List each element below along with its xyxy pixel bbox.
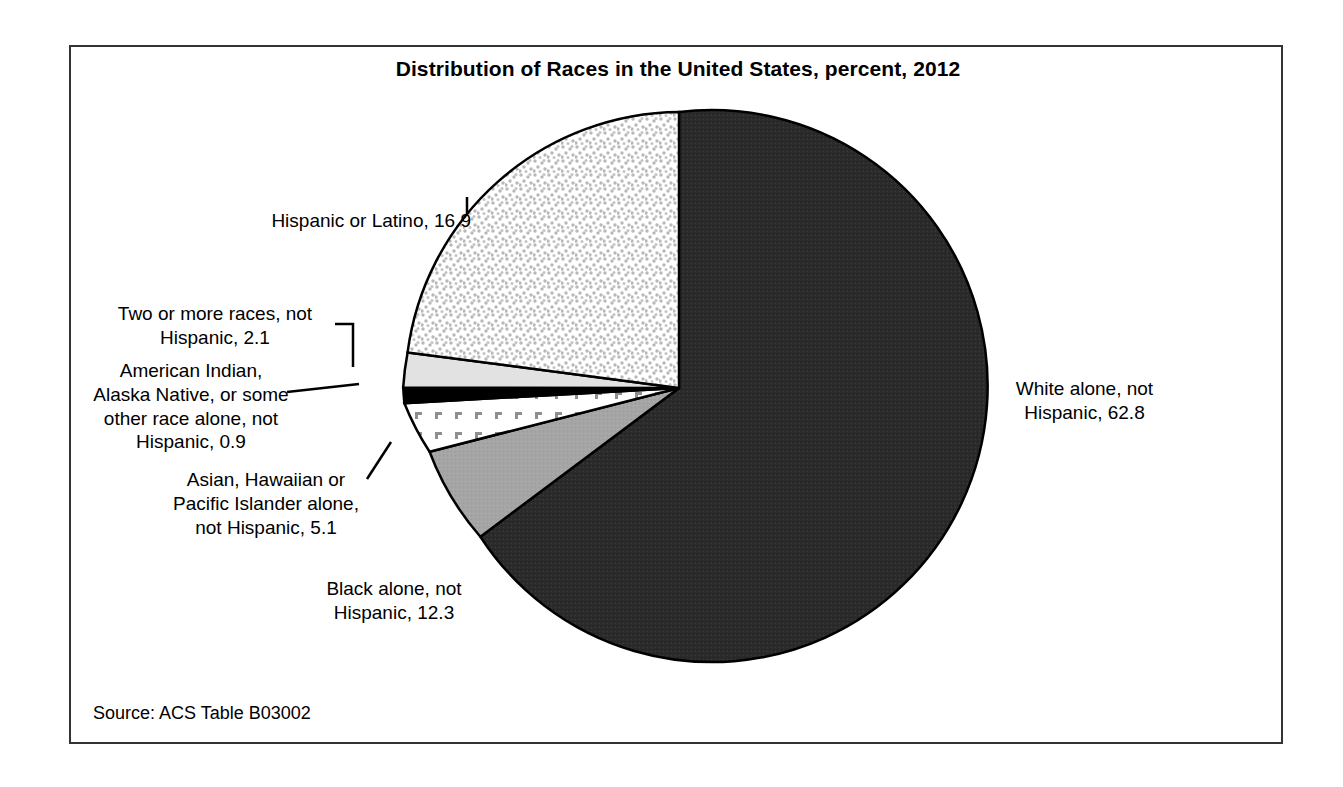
- pie-label-black-alone: Black alone, not Hispanic, 12.3: [289, 577, 499, 625]
- pie-label-two-or-more: Two or more races, not Hispanic, 2.1: [91, 302, 339, 350]
- pie-chart-area: Hispanic or Latino, 16.9 Two or more rac…: [71, 47, 1285, 746]
- pie-label-asian: Asian, Hawaiian or Pacific Islander alon…: [161, 468, 371, 539]
- pie-label-hispanic: Hispanic or Latino, 16.9: [171, 209, 471, 233]
- leader-line-american-indian: [287, 384, 359, 392]
- chart-frame: Distribution of Races in the United Stat…: [69, 45, 1283, 744]
- pie-label-american-indian: American Indian, Alaska Native, or some …: [91, 359, 291, 454]
- pie-slice-hispanic: [408, 112, 679, 388]
- pie-label-white-alone: White alone, not Hispanic, 62.8: [977, 377, 1192, 425]
- chart-image-root: Distribution of Races in the United Stat…: [0, 0, 1343, 787]
- source-note: Source: ACS Table B03002: [93, 703, 311, 724]
